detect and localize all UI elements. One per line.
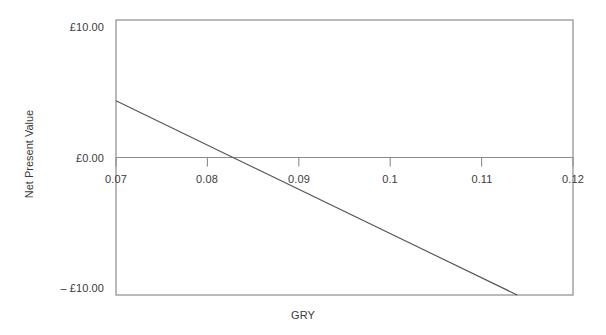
x-tick-label-5: 0.12	[543, 173, 603, 185]
x-tick-label-4: 0.11	[452, 173, 512, 185]
x-tick-label-3: 0.1	[360, 173, 420, 185]
x-axis-title: GRY	[0, 309, 606, 321]
x-tick-label-0: 0.07	[86, 173, 146, 185]
y-tick-label-top: £10.00	[8, 21, 104, 33]
npv-data-line	[116, 101, 517, 295]
y-tick-label-bottom: – £10.00	[8, 282, 104, 294]
y-axis-title: Net Present Value	[23, 89, 35, 219]
x-tick-label-2: 0.09	[269, 173, 329, 185]
x-tick-label-1: 0.08	[177, 173, 237, 185]
chart-container: £10.00 £0.00 – £10.00 Net Present Value …	[0, 0, 606, 335]
x-axis-ticks	[116, 158, 573, 167]
